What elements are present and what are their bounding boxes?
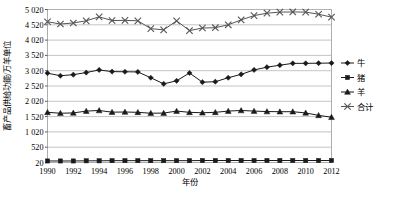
x-tick-label[interactable]: 2002 — [194, 167, 210, 176]
chart-container: 205201 0201 5202 0202 5203 0203 5204 020… — [0, 0, 399, 201]
x-tick-label[interactable]: 1992 — [65, 167, 81, 176]
x-tick-label[interactable]: 1990 — [39, 167, 55, 176]
y-axis-title[interactable]: 畜产品供给功能/万羊单位 — [2, 41, 12, 131]
marker-square[interactable] — [110, 159, 114, 163]
marker-square[interactable] — [239, 158, 243, 162]
y-axis[interactable]: 205201 0201 5202 0202 5203 0203 5204 020… — [25, 6, 47, 168]
x-tick-label[interactable]: 2012 — [323, 167, 339, 176]
legend-label[interactable]: 羊 — [357, 87, 365, 97]
y-tick-label[interactable]: 1 020 — [25, 128, 43, 137]
marker-square[interactable] — [316, 158, 320, 162]
marker-square[interactable] — [136, 159, 140, 163]
marker-square[interactable] — [329, 158, 333, 162]
marker-square[interactable] — [304, 158, 308, 162]
marker-square[interactable] — [123, 159, 127, 163]
y-tick-label[interactable]: 520 — [31, 143, 43, 152]
marker-square[interactable] — [162, 159, 166, 163]
y-tick-label[interactable]: 3 520 — [25, 51, 43, 60]
marker-square[interactable] — [174, 159, 178, 163]
x-axis-title[interactable]: 年份 — [182, 177, 199, 187]
x-tick-label[interactable]: 2010 — [297, 167, 313, 176]
marker-square[interactable] — [187, 159, 191, 163]
livestock-supply-line-chart: 205201 0201 5202 0202 5203 0203 5204 020… — [0, 0, 399, 201]
y-tick-label[interactable]: 1 520 — [25, 113, 43, 122]
marker-square[interactable] — [58, 159, 62, 163]
marker-square[interactable] — [213, 158, 217, 162]
legend[interactable]: 牛猪羊合计 — [341, 58, 374, 112]
x-tick-label[interactable]: 1996 — [117, 167, 133, 176]
marker-diamond[interactable] — [345, 60, 350, 65]
y-tick-label[interactable]: 2 520 — [25, 82, 43, 91]
x-tick-label[interactable]: 2000 — [168, 167, 184, 176]
y-tick-label[interactable]: 3 020 — [25, 67, 43, 76]
marker-square[interactable] — [252, 158, 256, 162]
marker-square[interactable] — [71, 159, 75, 163]
y-tick-label[interactable]: 4 020 — [25, 36, 43, 45]
marker-square[interactable] — [97, 159, 101, 163]
x-tick-label[interactable]: 2006 — [246, 167, 262, 176]
x-tick-label[interactable]: 2008 — [272, 167, 288, 176]
marker-square[interactable] — [45, 159, 49, 163]
x-axis[interactable]: 1990199219941996199820002002200420062008… — [39, 167, 339, 176]
y-tick-label[interactable]: 2 020 — [25, 97, 43, 106]
legend-label[interactable]: 合计 — [357, 102, 374, 112]
y-tick-label[interactable]: 4 520 — [25, 21, 43, 30]
marker-square[interactable] — [278, 158, 282, 162]
y-tick-label[interactable]: 5 020 — [25, 6, 43, 15]
x-tick-label[interactable]: 1998 — [143, 167, 159, 176]
marker-square[interactable] — [226, 158, 230, 162]
legend-label[interactable]: 牛 — [357, 58, 365, 68]
x-tick-label[interactable]: 1994 — [91, 167, 107, 176]
marker-square[interactable] — [265, 158, 269, 162]
marker-square[interactable] — [291, 158, 295, 162]
legend-label[interactable]: 猪 — [357, 73, 366, 83]
marker-square[interactable] — [149, 159, 153, 163]
marker-square[interactable] — [200, 158, 204, 162]
marker-square[interactable] — [345, 75, 349, 79]
marker-square[interactable] — [84, 159, 88, 163]
x-tick-label[interactable]: 2004 — [220, 167, 236, 176]
